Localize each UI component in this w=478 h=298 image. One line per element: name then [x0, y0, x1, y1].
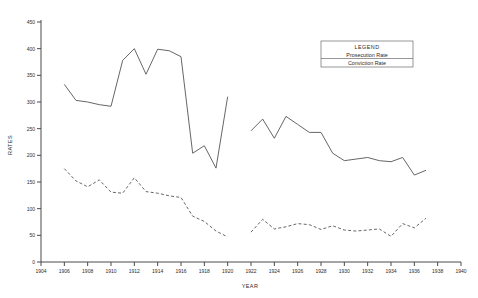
series-line-conviction-rate — [251, 218, 426, 236]
x-axis: 1904190619081910191219141916191819201922… — [35, 262, 466, 274]
x-tick-label: 1936 — [409, 268, 420, 274]
legend-title: LEGEND — [354, 44, 379, 50]
x-tick-label: 1930 — [339, 268, 350, 274]
y-axis: 050100150200250300350400450 — [27, 19, 41, 265]
series-line-prosecution-rate — [251, 116, 426, 175]
series-line-conviction-rate — [64, 169, 227, 237]
x-axis-title: YEAR — [242, 283, 259, 289]
x-tick-label: 1934 — [385, 268, 396, 274]
x-tick-label: 1940 — [455, 268, 466, 274]
x-tick-label: 1912 — [129, 268, 140, 274]
x-tick-label: 1932 — [362, 268, 373, 274]
y-tick-label: 200 — [27, 152, 36, 158]
chart-legend: LEGEND Prosecution Rate Conviction Rate — [321, 41, 413, 67]
y-tick-label: 150 — [27, 179, 36, 185]
chart-container: 050100150200250300350400450 190419061908… — [0, 0, 478, 298]
x-tick-label: 1916 — [175, 268, 186, 274]
y-tick-label: 350 — [27, 72, 36, 78]
y-tick-label: 50 — [29, 232, 35, 238]
y-tick-label: 250 — [27, 126, 36, 132]
x-tick-label: 1928 — [315, 268, 326, 274]
series-lines — [64, 49, 426, 237]
legend-entry-conviction-rate: Conviction Rate — [348, 60, 386, 66]
x-tick-label: 1924 — [269, 268, 280, 274]
legend-entry-prosecution-rate: Prosecution Rate — [346, 52, 387, 58]
x-tick-label: 1918 — [199, 268, 210, 274]
x-tick-label: 1904 — [35, 268, 46, 274]
y-tick-label: 0 — [32, 259, 35, 265]
series-line-prosecution-rate — [64, 49, 227, 168]
x-tick-label: 1906 — [59, 268, 70, 274]
x-tick-label: 1922 — [245, 268, 256, 274]
y-tick-label: 300 — [27, 99, 36, 105]
y-tick-label: 400 — [27, 46, 36, 52]
x-tick-label: 1920 — [222, 268, 233, 274]
y-axis-title: RATES — [7, 135, 13, 155]
x-tick-label: 1938 — [432, 268, 443, 274]
x-tick-label: 1914 — [152, 268, 163, 274]
y-tick-label: 100 — [27, 206, 36, 212]
x-tick-label: 1910 — [105, 268, 116, 274]
x-tick-label: 1926 — [292, 268, 303, 274]
x-tick-label: 1908 — [82, 268, 93, 274]
y-tick-label: 450 — [27, 19, 36, 25]
rates-line-chart: 050100150200250300350400450 190419061908… — [0, 0, 478, 298]
